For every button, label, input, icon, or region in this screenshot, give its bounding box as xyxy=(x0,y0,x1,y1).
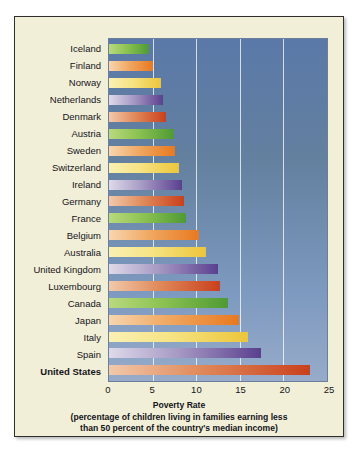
bar-row xyxy=(109,365,327,375)
bar-row xyxy=(109,78,327,88)
y-axis-label: Finland xyxy=(15,61,105,71)
bar-row xyxy=(109,180,327,190)
plot-wrapper xyxy=(108,38,328,382)
bar-row xyxy=(109,129,327,139)
chart-caption: Poverty Rate (percentage of children liv… xyxy=(23,400,335,434)
x-axis-title: Poverty Rate xyxy=(23,400,335,411)
bar xyxy=(109,146,175,156)
bar-row xyxy=(109,264,327,274)
bar xyxy=(109,348,261,358)
bar-row xyxy=(109,95,327,105)
x-axis-ticks: 0510152025 xyxy=(108,382,329,398)
bar xyxy=(109,213,186,223)
bar-row xyxy=(109,281,327,291)
x-tick-label: 5 xyxy=(150,384,155,395)
y-axis-label: Belgium xyxy=(15,231,105,241)
x-tick-label: 20 xyxy=(280,384,291,395)
y-axis-label: Norway xyxy=(15,78,105,88)
y-axis-label: Denmark xyxy=(15,112,105,122)
bar-row xyxy=(109,230,327,240)
bar-row xyxy=(109,247,327,257)
bar xyxy=(109,196,184,206)
bar xyxy=(109,44,149,54)
x-tick-label: 25 xyxy=(324,384,335,395)
y-axis-label: Netherlands xyxy=(15,95,105,105)
bar xyxy=(109,365,310,375)
chart-figure: IcelandFinlandNorwayNetherlandsDenmarkAu… xyxy=(14,16,344,437)
bar xyxy=(109,332,248,342)
bar-row xyxy=(109,196,327,206)
bar xyxy=(109,78,161,88)
bar-row xyxy=(109,348,327,358)
bar-row xyxy=(109,332,327,342)
y-axis-label: Japan xyxy=(15,316,105,326)
bar-row xyxy=(109,112,327,122)
caption-line-1: (percentage of children living in famili… xyxy=(23,412,335,423)
bar-row xyxy=(109,298,327,308)
y-axis-label: Germany xyxy=(15,197,105,207)
caption-line-2: than 50 percent of the country's median … xyxy=(23,423,335,434)
y-axis-label: Canada xyxy=(15,299,105,309)
y-axis-label: France xyxy=(15,214,105,224)
y-axis-label: United Kingdom xyxy=(15,265,105,275)
y-axis-category-labels: IcelandFinlandNorwayNetherlandsDenmarkAu… xyxy=(15,38,105,382)
y-axis-label: Switzerland xyxy=(15,163,105,173)
bar-series xyxy=(109,39,327,381)
x-tick-label: 10 xyxy=(191,384,202,395)
bar xyxy=(109,180,182,190)
y-axis-label: Spain xyxy=(15,350,105,360)
y-axis-label: Austria xyxy=(15,129,105,139)
plot-area xyxy=(108,38,328,382)
y-axis-label: Luxembourg xyxy=(15,282,105,292)
bar xyxy=(109,129,174,139)
bar-row xyxy=(109,163,327,173)
bar-row xyxy=(109,44,327,54)
y-axis-label: Sweden xyxy=(15,146,105,156)
x-tick-label: 15 xyxy=(235,384,246,395)
y-axis-label: Ireland xyxy=(15,180,105,190)
bar xyxy=(109,298,228,308)
bar xyxy=(109,247,206,257)
y-axis-label: Italy xyxy=(15,333,105,343)
bar-row xyxy=(109,61,327,71)
x-tick-label: 0 xyxy=(105,384,110,395)
bar xyxy=(109,163,179,173)
bar xyxy=(109,95,163,105)
bar-row xyxy=(109,146,327,156)
bar xyxy=(109,61,153,71)
bar-row xyxy=(109,315,327,325)
bar xyxy=(109,264,218,274)
y-axis-label: Iceland xyxy=(15,44,105,54)
bar xyxy=(109,315,239,325)
bar xyxy=(109,281,220,291)
y-axis-label: Australia xyxy=(15,248,105,258)
bar xyxy=(109,230,199,240)
y-axis-label: United States xyxy=(15,367,105,377)
bar-row xyxy=(109,213,327,223)
bar xyxy=(109,112,166,122)
